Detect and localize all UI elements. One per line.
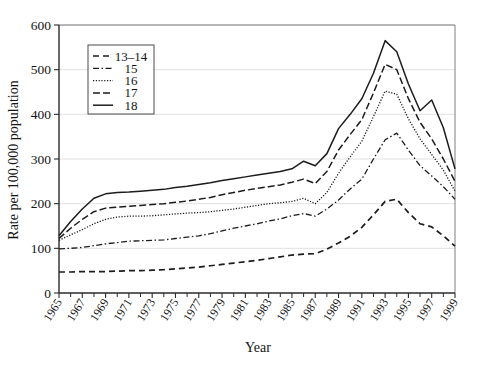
x-tick-label: 1987 [297,296,322,324]
x-tick-label: 1993 [367,296,392,324]
y-axis-title: Rate per 100,000 population [6,80,21,239]
series-line-15 [59,133,455,249]
x-axis-tick-labels: 1965196719691971197319751977197919811983… [40,296,461,324]
y-tick-label: 500 [31,62,52,77]
x-tick-label: 1977 [180,296,205,324]
x-tick-label: 1971 [110,296,135,324]
series-line-13-14 [59,199,455,272]
x-tick-label: 1969 [87,296,112,324]
y-tick-label: 100 [31,241,52,256]
x-tick-label: 1981 [227,296,252,324]
x-tick-label: 1967 [64,296,89,324]
x-axis-ticks [59,293,455,298]
x-tick-label: 1979 [204,296,229,324]
chart-figure: 0100200300400500600 19651967196919711973… [0,0,491,365]
y-tick-label: 200 [31,196,52,211]
y-tick-label: 600 [31,18,52,33]
y-tick-label: 300 [31,152,52,167]
line-chart: 0100200300400500600 19651967196919711973… [0,0,491,365]
x-tick-label: 1991 [343,296,368,324]
x-tick-label: 1999 [436,296,461,324]
y-axis-ticks [54,25,59,293]
x-tick-label: 1997 [413,296,438,324]
x-tick-label: 1989 [320,296,345,324]
legend-label-18: 18 [125,98,138,113]
y-axis-tick-labels: 0100200300400500600 [31,18,52,301]
x-tick-label: 1983 [250,296,275,324]
x-tick-label: 1975 [157,296,182,324]
chart-legend: 13–1415161718 [88,45,154,114]
x-tick-label: 1985 [273,296,298,324]
x-tick-label: 1995 [390,296,415,324]
y-tick-label: 400 [31,107,52,122]
x-axis-title: Year [245,340,271,355]
x-tick-label: 1973 [134,296,159,324]
y-tick-label: 0 [44,286,51,301]
